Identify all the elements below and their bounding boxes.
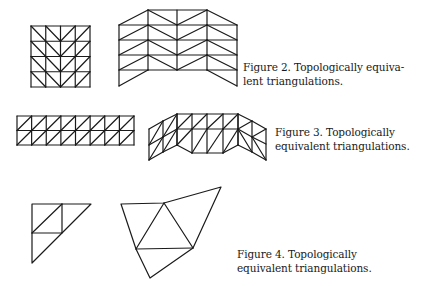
figure3-caption-line1: Figure 3. Topologically [275,125,438,139]
figure4-caption-line1: Figure 4. Topologically [237,247,437,261]
figure3-caption-line2: equivalent triangulations. [275,139,438,153]
figure4-right-polygon-mesh [121,187,221,278]
figure2-left-grid-mesh [31,26,90,87]
figure2-right-folded-mesh [119,10,237,86]
figure3-left-strip-mesh [17,116,134,145]
figure3-right-bent-mesh [149,114,266,160]
figure2-caption-line1: Figure 2. Topologically equiva- [243,60,438,74]
figure2-caption: Figure 2. Topologically equiva- lent tri… [243,60,438,88]
figure4-caption: Figure 4. Topologically equivalent trian… [237,247,437,275]
figure2-caption-line2: lent triangulations. [243,74,438,88]
figure4-caption-line2: equivalent triangulations. [237,261,437,275]
figure3-caption: Figure 3. Topologically equivalent trian… [275,125,438,153]
figure4-left-triangle-mesh [32,204,91,263]
